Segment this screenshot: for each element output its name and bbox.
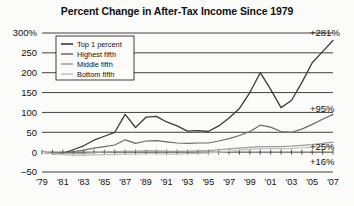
y-axis-tick-label: 0 [32,147,37,158]
legend-label-bottom-fifth: Bottom fifth [77,70,114,79]
x-axis-tick-label: '05 [306,177,318,187]
x-axis-tick-label: '99 [244,177,256,187]
y-axis-tick-label: 50 [26,127,37,138]
annotation-16: +16% [310,156,335,167]
x-axis-tick-label: '93 [182,177,194,187]
y-axis-tick-label: 250 [21,47,37,58]
x-axis-tick-label: '83 [78,177,90,187]
x-axis-tick-label: '07 [327,177,339,187]
x-axis-tick-label: '91 [161,177,173,187]
x-axis-labels: '79'81'83'85'87'89'91'93'95'97'99'01'03'… [36,177,339,187]
x-axis-tick-label: '81 [57,177,69,187]
x-axis-tick-label: '87 [119,177,131,187]
chart-legend: Top 1 percentHighest fifthMiddle fifthBo… [56,36,134,80]
legend-label-top-1-percent: Top 1 percent [77,40,122,49]
chart-plot-area: 300%250200150100500–50 '79'81'83'85'87'8… [0,0,354,206]
annotation-95: +95% [310,103,335,114]
x-axis-tick-label: '89 [140,177,152,187]
x-axis-tick-label: '79 [36,177,48,187]
y-axis-tick-label: 100 [21,107,37,118]
y-axis-tick-label: 200 [21,67,37,78]
x-axis-tick-label: '95 [202,177,214,187]
y-axis-labels: 300%250200150100500–50 [13,27,38,177]
x-axis-tick-label: '97 [223,177,235,187]
series-line-highest-fifth [42,114,333,153]
legend-label-middle-fifth: Middle fifth [77,60,113,69]
x-axis-tick-label: '03 [286,177,298,187]
y-axis-tick-label: –50 [21,166,37,177]
annotation-25: +25% [310,141,335,152]
annotation-281: +281% [310,27,340,38]
x-axis-tick-label: '85 [98,177,110,187]
chart-container: Percent Change in After-Tax Income Since… [0,0,354,206]
x-axis-tick-label: '01 [265,177,277,187]
y-axis-tick-label: 300% [13,27,38,38]
legend-label-highest-fifth: Highest fifth [77,50,116,59]
y-axis-tick-label: 150 [21,87,37,98]
